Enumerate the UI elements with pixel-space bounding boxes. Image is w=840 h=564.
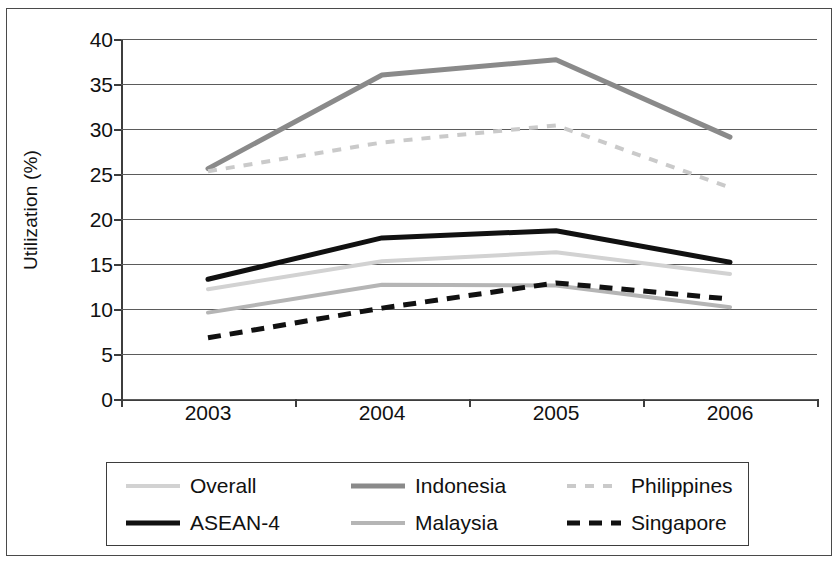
legend-label: Malaysia bbox=[415, 512, 498, 533]
y-tick-label: 5 bbox=[101, 344, 113, 365]
y-tick-mark bbox=[114, 399, 121, 401]
series-line-philippines bbox=[208, 125, 730, 187]
x-axis-tick-labels: 2003200420052006 bbox=[121, 381, 817, 421]
line-swatch-indonesia bbox=[350, 478, 406, 494]
y-tick-mark bbox=[114, 174, 121, 176]
x-tick-label: 2003 bbox=[185, 401, 232, 425]
y-tick-mark bbox=[114, 309, 121, 311]
x-tick-label: 2006 bbox=[707, 401, 754, 425]
line-swatch-philippines bbox=[566, 478, 622, 494]
legend-item-overall[interactable]: Overall bbox=[125, 475, 350, 496]
line-swatch-malaysia bbox=[350, 515, 406, 531]
chart-area: Utilization (%) 0510152025303540 2003200… bbox=[7, 9, 833, 439]
legend-label: Philippines bbox=[631, 475, 733, 496]
series-line-indonesia bbox=[208, 60, 730, 169]
legend-item-indonesia[interactable]: Indonesia bbox=[350, 475, 566, 496]
series-lines bbox=[121, 39, 817, 399]
y-tick-label: 15 bbox=[90, 254, 113, 275]
legend-label: Indonesia bbox=[415, 475, 506, 496]
y-tick-mark bbox=[114, 354, 121, 356]
y-tick-label: 10 bbox=[90, 299, 113, 320]
legend-label: Singapore bbox=[631, 512, 727, 533]
y-tick-mark bbox=[114, 84, 121, 86]
x-tick-mark bbox=[817, 399, 819, 407]
y-tick-mark bbox=[114, 264, 121, 266]
y-tick-mark bbox=[114, 129, 121, 131]
x-tick-label: 2005 bbox=[533, 401, 580, 425]
y-tick-label: 30 bbox=[90, 119, 113, 140]
x-tick-label: 2004 bbox=[359, 401, 406, 425]
legend-item-singapore[interactable]: Singapore bbox=[566, 512, 768, 533]
line-swatch-overall bbox=[125, 478, 181, 494]
y-tick-label: 35 bbox=[90, 74, 113, 95]
y-tick-label: 20 bbox=[90, 209, 113, 230]
line-swatch-asean4 bbox=[125, 515, 181, 531]
legend-item-asean-4[interactable]: ASEAN-4 bbox=[125, 512, 350, 533]
y-tick-label: 0 bbox=[101, 389, 113, 410]
y-tick-mark bbox=[114, 39, 121, 41]
figure-frame: Utilization (%) 0510152025303540 2003200… bbox=[6, 8, 832, 556]
legend-label: ASEAN-4 bbox=[190, 512, 280, 533]
legend-label: Overall bbox=[190, 475, 257, 496]
legend-item-philippines[interactable]: Philippines bbox=[566, 475, 768, 496]
legend-grid: OverallIndonesiaPhilippinesASEAN-4Malays… bbox=[107, 463, 748, 545]
series-line-singapore bbox=[208, 283, 730, 338]
y-axis-tick-labels: 0510152025303540 bbox=[61, 39, 113, 399]
y-tick-label: 40 bbox=[90, 29, 113, 50]
line-swatch-singapore bbox=[566, 515, 622, 531]
y-tick-mark bbox=[114, 219, 121, 221]
legend: OverallIndonesiaPhilippinesASEAN-4Malays… bbox=[106, 462, 749, 546]
y-axis-title: Utilization (%) bbox=[20, 100, 42, 320]
series-line-malaysia bbox=[208, 285, 730, 313]
y-tick-label: 25 bbox=[90, 164, 113, 185]
legend-item-malaysia[interactable]: Malaysia bbox=[350, 512, 566, 533]
